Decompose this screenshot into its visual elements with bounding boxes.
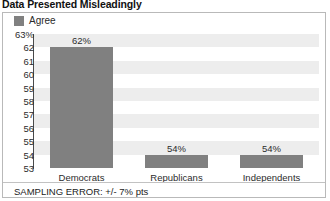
y-axis-tick-label: 56	[23, 124, 34, 134]
y-axis-tick-label: 60	[23, 70, 34, 80]
bar-independents[interactable]	[240, 155, 303, 168]
y-axis-tick-label: 53	[23, 164, 34, 174]
bar-value-label: 54%	[240, 144, 303, 154]
bar-republicans[interactable]	[145, 155, 208, 168]
y-axis-tick-label: 54	[23, 151, 34, 161]
y-axis-tick-label: 57	[23, 110, 34, 120]
footer-divider	[3, 182, 325, 183]
bar-democrats[interactable]	[50, 47, 113, 168]
y-axis-tick-label: 58	[23, 97, 34, 107]
y-axis-tick-label: 61	[23, 57, 34, 67]
y-axis-tick-label: 62	[23, 43, 34, 53]
legend-swatch-agree-icon	[14, 16, 24, 26]
chart-legend: Agree	[14, 15, 56, 26]
legend-label-agree: Agree	[29, 15, 56, 26]
bar-value-label: 62%	[50, 36, 113, 46]
page-title: Data Presented Misleadingly	[2, 0, 142, 10]
y-axis-tick-label: 55	[23, 137, 34, 147]
y-axis-tick-label: 59	[23, 84, 34, 94]
sampling-error-note: SAMPLING ERROR: +/- 7% pts	[14, 186, 148, 197]
bar-value-label: 54%	[145, 144, 208, 154]
y-axis-tick-label: 63%	[15, 30, 34, 40]
